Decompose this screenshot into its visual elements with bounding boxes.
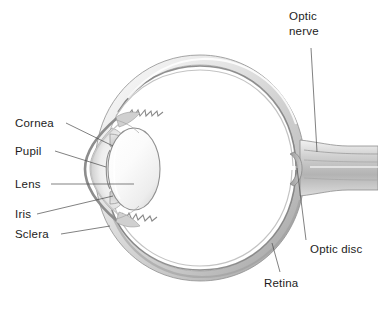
label-optic-nerve-line2: nerve — [289, 25, 319, 37]
eye-anatomy-diagram: Cornea Pupil Lens Iris Sclera Optic nerv… — [0, 0, 378, 328]
eye-cross-section-figure: Cornea Pupil Lens Iris Sclera Optic nerv… — [0, 0, 378, 328]
label-iris: Iris — [15, 208, 31, 220]
leader-optic-nerve — [311, 48, 317, 152]
optic-nerve-group — [290, 140, 378, 196]
leader-sclera — [61, 226, 110, 234]
label-cornea: Cornea — [15, 117, 54, 129]
optic-nerve-trunk — [300, 140, 378, 196]
label-lens: Lens — [15, 178, 41, 190]
label-retina: Retina — [264, 277, 299, 289]
label-pupil: Pupil — [15, 145, 42, 157]
label-sclera: Sclera — [15, 228, 49, 240]
lens — [108, 128, 160, 210]
label-optic-disc: Optic disc — [310, 243, 363, 255]
label-optic-nerve-line1: Optic — [289, 10, 317, 22]
